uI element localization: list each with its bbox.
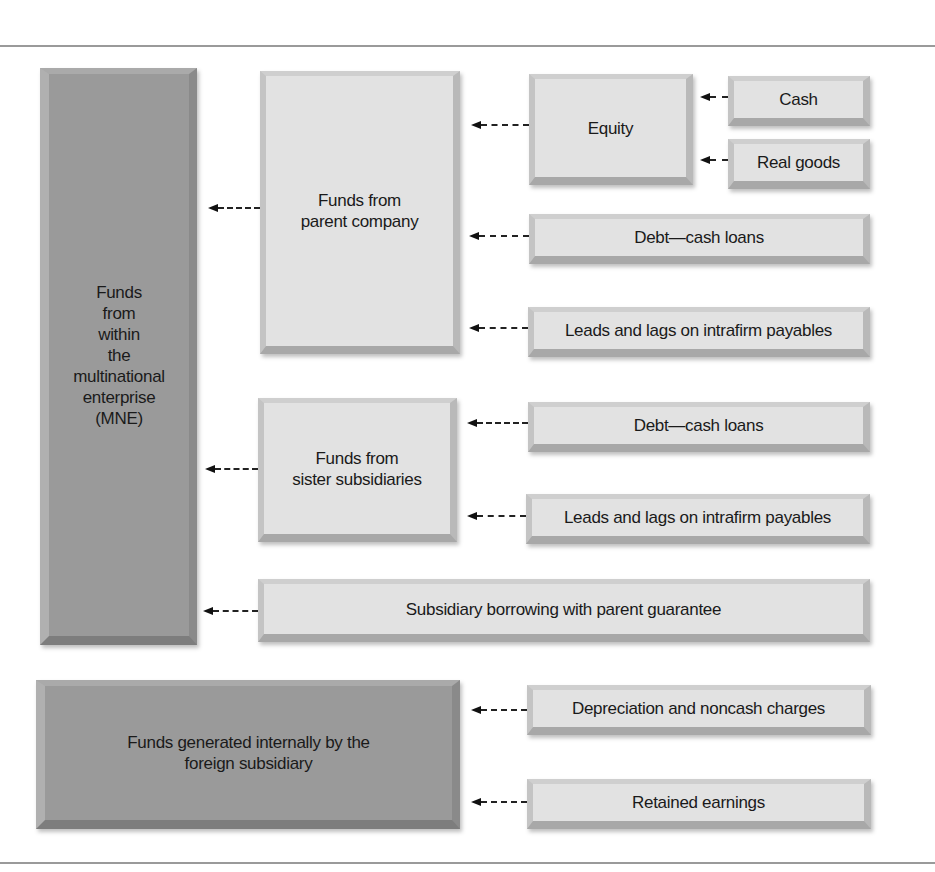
parent-debt-box: Debt—cash loans (529, 214, 870, 264)
retained-earnings-box: Retained earnings (527, 779, 871, 829)
parent-company-box: Funds from parent company (260, 71, 460, 354)
real-goods-box: Real goods (728, 139, 870, 189)
retained-earnings-label: Retained earnings (632, 792, 765, 813)
bottom-rule (0, 862, 935, 864)
parent-leads-lags-label: Leads and lags on intrafirm payables (565, 320, 832, 341)
mne-line-6: enterprise (83, 387, 156, 408)
parent-line-1: Funds from (318, 190, 401, 211)
mne-funds-box: Funds from within the multinational ente… (40, 68, 197, 645)
sister-subsidiaries-box: Funds from sister subsidiaries (258, 398, 457, 542)
mne-line-2: from (103, 303, 136, 324)
top-rule (0, 45, 935, 47)
parent-guarantee-borrowing-box: Subsidiary borrowing with parent guarant… (258, 579, 870, 642)
arrow-sister-to-mne (205, 464, 258, 474)
arrow-sister-leads-lags (467, 511, 526, 521)
equity-box: Equity (529, 74, 693, 185)
arrow-parent-leads-lags (469, 323, 528, 333)
arrow-cash-to-equity (700, 92, 728, 102)
internal-line-2: foreign subsidiary (185, 753, 313, 774)
mne-line-1: Funds (96, 282, 142, 303)
cash-box: Cash (728, 76, 870, 126)
sister-leads-lags-label: Leads and lags on intrafirm payables (564, 507, 831, 528)
arrow-equity-to-parent (471, 120, 529, 130)
depreciation-label: Depreciation and noncash charges (572, 698, 825, 719)
cash-label: Cash (779, 89, 818, 110)
sister-debt-box: Debt—cash loans (528, 402, 870, 452)
parent-line-2: parent company (301, 211, 419, 232)
arrow-guarantee-to-mne (203, 606, 258, 616)
arrow-depreciation (471, 705, 527, 715)
internal-funds-box: Funds generated internally by the foreig… (36, 680, 460, 829)
depreciation-box: Depreciation and noncash charges (527, 685, 871, 735)
parent-debt-label: Debt—cash loans (634, 227, 764, 248)
parent-guarantee-label: Subsidiary borrowing with parent guarant… (406, 599, 721, 620)
sister-line-2: sister subsidiaries (292, 469, 421, 490)
real-goods-label: Real goods (757, 152, 840, 173)
sister-line-1: Funds from (316, 448, 399, 469)
mne-line-3: within (98, 324, 140, 345)
equity-label: Equity (588, 118, 633, 139)
arrow-real-goods-to-equity (700, 155, 728, 165)
sister-debt-label: Debt—cash loans (634, 415, 764, 436)
mne-line-5: multinational (73, 366, 165, 387)
sister-leads-lags-box: Leads and lags on intrafirm payables (526, 494, 870, 544)
mne-line-7: (MNE) (95, 408, 143, 429)
internal-line-1: Funds generated internally by the (127, 732, 369, 753)
mne-line-4: the (108, 345, 131, 366)
arrow-parent-to-mne (208, 203, 260, 213)
arrow-sister-debt (467, 418, 528, 428)
parent-leads-lags-box: Leads and lags on intrafirm payables (528, 307, 870, 357)
arrow-retained-earnings (471, 797, 527, 807)
arrow-parent-debt (469, 231, 529, 241)
